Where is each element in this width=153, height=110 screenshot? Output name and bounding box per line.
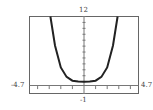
xmin-label: -4.7 — [11, 81, 25, 89]
ymax-label: 12 — [79, 6, 88, 14]
xmax-label: 4.7 — [141, 81, 152, 89]
graph-frame — [0, 0, 153, 110]
ymin-label: -1 — [80, 96, 87, 104]
